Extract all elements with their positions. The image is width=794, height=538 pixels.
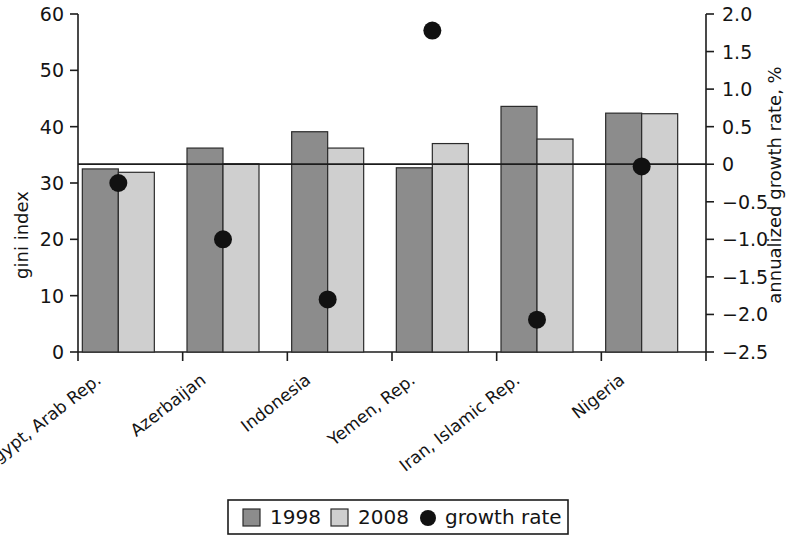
right-tick-label: 1.5: [722, 41, 752, 63]
bar-1998: [606, 113, 642, 352]
left-tick-label: 20: [40, 228, 64, 250]
right-tick-label: −2.5: [722, 341, 768, 363]
growth-rate-marker: [528, 311, 546, 329]
right-tick-label: −1.0: [722, 228, 768, 250]
bar-1998: [82, 169, 118, 352]
bar-2008: [432, 144, 468, 352]
legend-item-2008: 2008: [331, 505, 409, 529]
growth-rate-marker: [214, 230, 232, 248]
left-tick-label: 50: [40, 59, 64, 81]
right-tick-label: −2.0: [722, 303, 768, 325]
legend-label-growth-rate: growth rate: [445, 505, 562, 529]
left-tick-label: 10: [40, 285, 64, 307]
left-tick-label: 30: [40, 172, 64, 194]
left-axis-title: gini index: [11, 191, 32, 279]
bar-2008: [223, 164, 259, 352]
legend-label-2008: 2008: [358, 505, 409, 529]
growth-rate-marker: [423, 22, 441, 40]
legend-swatch-1998: [243, 509, 260, 526]
legend: 1998 2008 growth rate: [228, 500, 568, 534]
left-tick-label: 40: [40, 116, 64, 138]
bar-1998: [396, 168, 432, 352]
left-tick-label: 60: [40, 3, 64, 25]
right-tick-label: −1.5: [722, 266, 768, 288]
chart-container: 6050403020100 gini index 2.01.51.00.50−0…: [0, 0, 794, 538]
bar-2008: [328, 148, 364, 352]
growth-rate-marker: [109, 174, 127, 192]
bar-1998: [187, 148, 223, 352]
left-tick-label: 0: [52, 341, 64, 363]
bar-2008: [118, 172, 154, 352]
right-axis-title: annualized growth rate, %: [764, 66, 785, 303]
bar-2008: [642, 114, 678, 352]
legend-label-1998: 1998: [270, 505, 321, 529]
growth-rate-marker: [633, 157, 651, 175]
growth-rate-marker: [319, 290, 337, 308]
legend-item-1998: 1998: [243, 505, 321, 529]
right-tick-label: 1.0: [722, 78, 752, 100]
right-tick-label: 0.5: [722, 116, 752, 138]
legend-dot-growth-rate: [420, 510, 436, 526]
right-tick-label: −0.5: [722, 191, 768, 213]
combo-chart: 6050403020100 gini index 2.01.51.00.50−0…: [0, 0, 794, 538]
right-tick-label: 2.0: [722, 3, 752, 25]
right-tick-label: 0: [722, 153, 734, 175]
legend-swatch-2008: [331, 509, 348, 526]
